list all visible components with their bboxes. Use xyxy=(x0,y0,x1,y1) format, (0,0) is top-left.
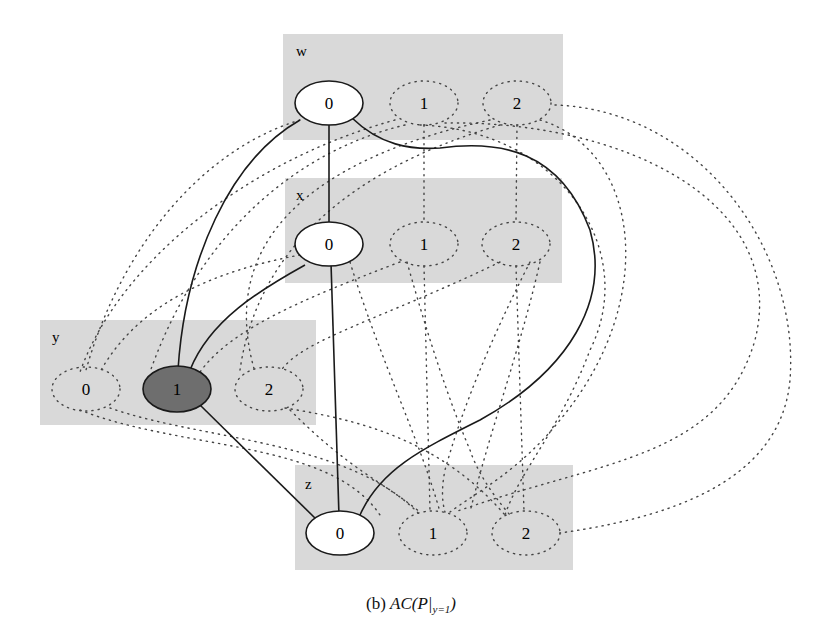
svg-text:2: 2 xyxy=(522,524,531,543)
variable-label-w: w xyxy=(296,43,307,59)
svg-text:1: 1 xyxy=(420,94,429,113)
svg-text:1: 1 xyxy=(429,524,438,543)
variable-label-y: y xyxy=(52,329,60,345)
caption-math-main: AC(P| xyxy=(390,594,432,613)
svg-text:1: 1 xyxy=(173,380,182,399)
caption-math-sub: y=1 xyxy=(433,603,451,615)
svg-text:2: 2 xyxy=(512,235,521,254)
variable-label-x: x xyxy=(296,187,304,203)
svg-text:2: 2 xyxy=(513,94,522,113)
edge-w0-z0 xyxy=(352,118,595,515)
svg-text:0: 0 xyxy=(336,524,345,543)
svg-text:1: 1 xyxy=(420,235,429,254)
figure-caption: (b) AC(P|y=1) xyxy=(0,594,822,615)
constraint-graph: w 0 1 2 x 0 1 2 y 0 1 2 z 0 1 2 xyxy=(0,0,822,638)
svg-text:0: 0 xyxy=(325,94,334,113)
caption-math-close: ) xyxy=(450,594,456,613)
svg-text:0: 0 xyxy=(325,235,334,254)
variable-label-z: z xyxy=(305,476,312,492)
svg-text:2: 2 xyxy=(265,380,274,399)
caption-label: (b) xyxy=(366,594,386,613)
caption-math: AC(P|y=1) xyxy=(390,594,456,613)
svg-text:0: 0 xyxy=(82,380,91,399)
